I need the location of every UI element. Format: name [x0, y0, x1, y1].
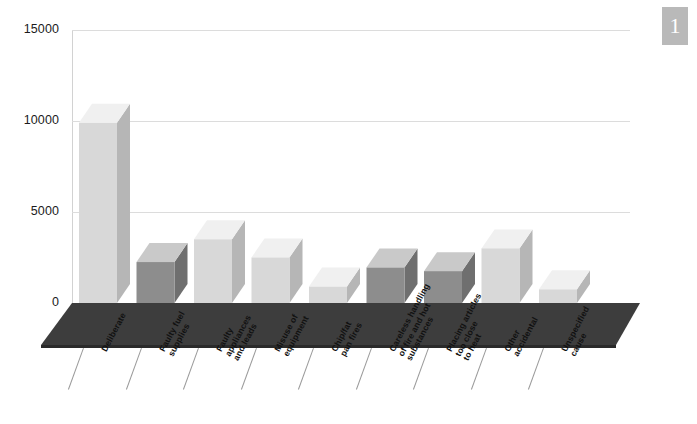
bar-column[interactable] — [0, 0, 697, 424]
bar-3d-shape — [0, 0, 697, 424]
bar-front-face — [539, 289, 577, 303]
chart-canvas: 1 050001000015000 DeliberateFaulty fuel … — [0, 0, 697, 424]
